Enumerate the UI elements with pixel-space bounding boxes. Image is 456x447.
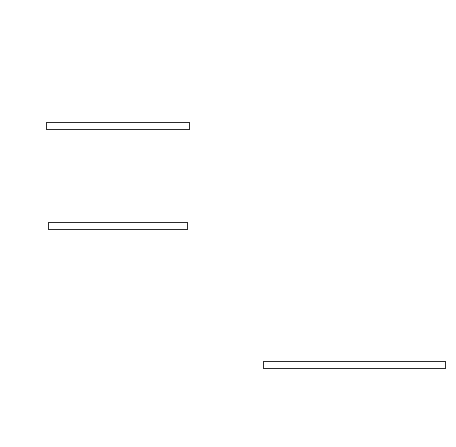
panel-bottom-y-axis	[0, 332, 36, 432]
panel-bottom-trade-ratios	[40, 332, 447, 432]
figure-root	[0, 0, 456, 447]
panel-top-macro-indicators	[40, 6, 447, 186]
panel-top-plot	[40, 6, 447, 186]
panel-middle-legend	[48, 222, 188, 230]
panel-middle-y-axis	[0, 213, 36, 319]
panel-top-x-axis	[40, 190, 447, 204]
panel-top-legend	[46, 122, 190, 130]
panel-bottom-legend	[263, 361, 446, 369]
panel-top-y-axis	[0, 6, 36, 186]
panel-bottom-plot	[40, 332, 447, 432]
